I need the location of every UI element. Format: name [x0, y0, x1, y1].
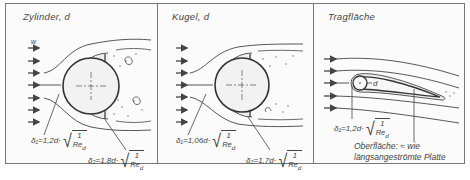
figure-frame: Zylinder, d w	[5, 3, 465, 164]
formula-coef: 1,06	[188, 136, 204, 145]
formula-delta1-zylinder: δ₁=1,2d· √1Red	[31, 130, 87, 152]
formula-var: d	[269, 156, 273, 165]
formula-coef: 1,2	[346, 124, 357, 133]
formula-delta2-kugel: δ₂=1,7d· √1Red	[246, 150, 302, 172]
frac-den: Re	[222, 140, 232, 149]
formula-symbol: δ₂	[246, 156, 254, 165]
flow-arrows	[28, 48, 39, 122]
panel-kugel: Kugel, d	[158, 4, 314, 163]
sqrt-symbol: √1Red	[278, 150, 302, 172]
formula-var: d	[357, 124, 361, 133]
sqrt-symbol: √1Red	[120, 150, 144, 172]
surface-note: Oberfläche: ≈ wie längsangeströmte Platt…	[354, 141, 446, 163]
formula-var: d	[54, 136, 58, 145]
sqrt-symbol: √1Red	[212, 130, 236, 152]
diameter-label: d	[373, 79, 378, 88]
frac-den-sub: d	[385, 132, 388, 139]
panel-zylinder: Zylinder, d w	[6, 4, 158, 163]
frac-num: 1	[293, 151, 297, 160]
formula-var: d	[203, 136, 207, 145]
sqrt-symbol: √1Red	[366, 118, 390, 140]
frac-den: Re	[376, 128, 386, 137]
svg-text:w: w	[31, 38, 37, 45]
formula-delta1-kugel: δ₁=1,06d· √1Red	[176, 130, 236, 152]
frac-den-sub: d	[298, 164, 301, 171]
frac-den: Re	[130, 160, 140, 169]
panel-tragflaeche: Tragfläche	[314, 4, 464, 163]
formula-coef: 1,8	[100, 156, 111, 165]
frac-den-sub: d	[82, 144, 85, 151]
frac-den: Re	[288, 160, 298, 169]
frac-den: Re	[73, 140, 83, 149]
formula-delta2-zylinder: δ₂=1,8d· √1Red	[88, 150, 144, 172]
formula-symbol: δ₁	[334, 124, 341, 133]
formula-delta1-tragflaeche: δ₁=1,2d· √1Red	[334, 118, 390, 140]
surface-note-line1: Oberfläche: ≈ wie	[354, 141, 446, 152]
frac-den-sub: d	[232, 144, 235, 151]
formula-symbol: δ₁	[176, 136, 183, 145]
surface-note-line2: längsangeströmte Platte	[354, 152, 446, 163]
frac-num: 1	[135, 151, 139, 160]
formula-var: d	[111, 156, 115, 165]
formula-coef: 1,7	[258, 156, 269, 165]
flow-arrows	[176, 48, 187, 122]
frac-num: 1	[227, 131, 231, 140]
frac-den-sub: d	[140, 164, 143, 171]
frac-num: 1	[380, 119, 384, 128]
formula-symbol: δ₁	[31, 136, 38, 145]
frac-num: 1	[77, 131, 81, 140]
flow-arrows	[324, 59, 336, 108]
formula-coef: 1,2	[43, 136, 54, 145]
formula-symbol: δ₂	[88, 156, 96, 165]
sqrt-symbol: √1Red	[63, 130, 87, 152]
